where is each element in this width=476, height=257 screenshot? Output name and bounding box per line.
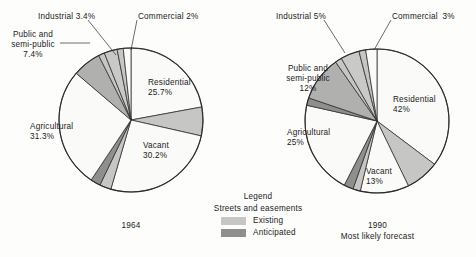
legend-item-anticipated: Anticipated: [206, 228, 310, 237]
left-label-agricultural: Agricultural 31.3%: [30, 122, 73, 142]
left-label-residential: Residential 25.7%: [148, 78, 191, 98]
left-label-vacant: Vacant 30.2%: [143, 141, 169, 161]
left-label-commercial: Commercial 2%: [138, 12, 198, 22]
right-leader-commercial: [374, 20, 391, 50]
right-label-public-semipublic: Public and semi-public 12%: [277, 64, 339, 95]
right-label-commercial: Commercial 3%: [392, 12, 455, 22]
legend: Legend Streets and easements Existing An…: [206, 192, 310, 240]
legend-swatch-existing: [221, 217, 246, 225]
right-label-residential: Residential 42%: [393, 95, 436, 115]
right-chart-caption: 1990 Most likely forecast: [325, 220, 430, 242]
legend-subtitle: Streets and easements: [206, 204, 310, 213]
left-label-public-semipublic: Public and semi-public 7.4%: [4, 30, 62, 61]
legend-item-existing: Existing: [206, 216, 310, 225]
left-leader-commercial: [131, 20, 137, 50]
legend-label-anticipated: Anticipated: [253, 228, 296, 237]
legend-swatch-anticipated: [221, 229, 246, 237]
right-label-vacant: Vacant 13%: [366, 167, 392, 187]
pie-chart-figure: Industrial 3.4% Commercial 2% Public and…: [0, 0, 476, 257]
left-leader-industrial: [88, 20, 116, 55]
right-label-agricultural: Agricultural 25%: [287, 128, 330, 148]
right-leader-industrial: [324, 20, 345, 53]
right-label-industrial: Industrial 5%: [276, 12, 326, 22]
legend-title: Legend: [206, 192, 310, 201]
pie-left: [59, 48, 203, 192]
left-chart-caption: 1964: [101, 220, 161, 231]
left-label-industrial: Industrial 3.4%: [38, 12, 95, 22]
legend-label-existing: Existing: [253, 216, 283, 225]
